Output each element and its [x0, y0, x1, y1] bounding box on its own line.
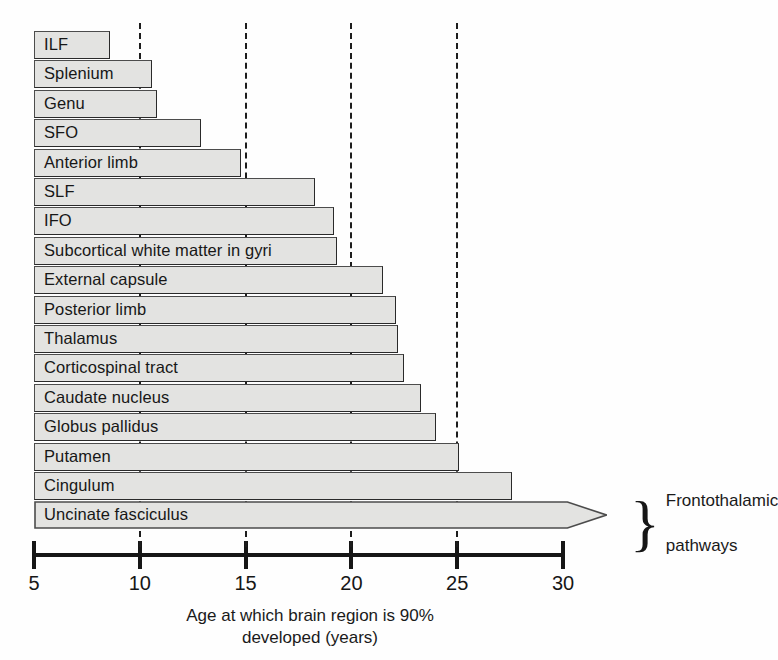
bar-6: [34, 178, 315, 206]
bar-row: ILF: [34, 31, 110, 59]
bar-row: Thalamus: [34, 325, 398, 353]
bar-3: [34, 90, 157, 118]
chart-figure: ILFSpleniumGenuSFOAnterior limbSLFIFOSub…: [0, 0, 778, 660]
x-tick-label-5: 5: [28, 572, 39, 595]
curly-brace-icon: }: [630, 497, 660, 550]
x-tick-label-15: 15: [234, 572, 256, 595]
bar-row: Subcortical white matter in gyri: [34, 237, 337, 265]
annotation-label-line1: Frontothalamic: [666, 490, 778, 512]
bar-14: [34, 413, 436, 441]
bar-11: [34, 325, 398, 353]
bar-15: [34, 443, 459, 471]
bar-row: Splenium: [34, 60, 152, 88]
bar-4: [34, 119, 201, 147]
bar-5: [34, 149, 241, 177]
x-tick-5: [32, 541, 36, 569]
bar-row: External capsule: [34, 266, 383, 294]
bar-7: [34, 207, 334, 235]
bar-row: Putamen: [34, 443, 459, 471]
bar-row: Posterior limb: [34, 296, 396, 324]
bar-12: [34, 354, 404, 382]
bar-2: [34, 60, 152, 88]
bar-row: Uncinate fasciculus: [34, 501, 607, 529]
x-axis-line: [32, 553, 565, 557]
bar-row: SFO: [34, 119, 201, 147]
x-tick-label-20: 20: [340, 572, 362, 595]
x-axis-caption-line1: Age at which brain region is 90%: [95, 605, 525, 627]
x-tick-label-10: 10: [129, 572, 151, 595]
bar-arrow-17: [34, 501, 607, 529]
x-tick-30: [561, 541, 565, 569]
bar-1: [34, 31, 110, 59]
bar-row: SLF: [34, 178, 315, 206]
bar-row: IFO: [34, 207, 334, 235]
bar-16: [34, 472, 512, 500]
annotation-label-line2: pathways: [666, 535, 778, 557]
x-tick-label-30: 30: [552, 572, 574, 595]
bar-row: Globus pallidus: [34, 413, 436, 441]
bar-row: Caudate nucleus: [34, 384, 421, 412]
bar-10: [34, 296, 396, 324]
bar-row: Corticospinal tract: [34, 354, 404, 382]
frontothalamic-annotation: } Frontothalamic pathways: [630, 468, 778, 580]
bar-13: [34, 384, 421, 412]
bar-row: Anterior limb: [34, 149, 241, 177]
bar-8: [34, 237, 337, 265]
bar-row: Genu: [34, 90, 157, 118]
x-tick-label-25: 25: [446, 572, 468, 595]
annotation-label: Frontothalamic pathways: [666, 468, 778, 580]
x-axis-caption: Age at which brain region is 90% develop…: [95, 605, 525, 650]
bar-9: [34, 266, 383, 294]
x-axis-caption-line2: developed (years): [95, 627, 525, 649]
bar-row: Cingulum: [34, 472, 512, 500]
